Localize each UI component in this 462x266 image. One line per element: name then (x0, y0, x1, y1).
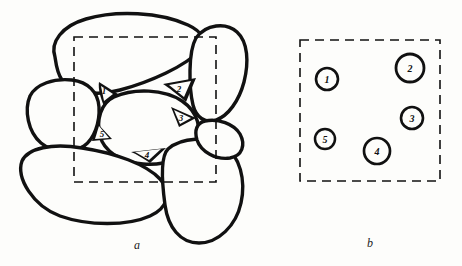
pore-label-5: 5 (100, 129, 105, 139)
pore-label-1: 1 (102, 86, 107, 96)
pore-circle-label-5: 5 (323, 134, 328, 145)
panel-b: 1 2 3 4 5 b (250, 0, 462, 266)
panel-a-caption: a (122, 238, 152, 253)
panel-b-svg: 1 2 3 4 5 (250, 0, 462, 266)
pore-label-3: 3 (178, 113, 184, 123)
pore-circle-label-2: 2 (407, 63, 413, 74)
panel-a-svg: 1 2 3 4 5 (0, 0, 250, 266)
grain-left-middle (27, 80, 99, 151)
grain-top-right (190, 26, 247, 121)
panel-a: 1 2 3 4 5 a (0, 0, 250, 266)
pore-label-4: 4 (144, 150, 150, 160)
pore-circle-label-1: 1 (325, 74, 330, 85)
grain-outlines (21, 13, 247, 243)
pore-label-2: 2 (176, 84, 182, 94)
pore-circle-label-4: 4 (374, 146, 380, 157)
figure-container: 1 2 3 4 5 a 1 2 3 4 5 (0, 0, 462, 266)
panel-b-caption: b (355, 236, 385, 251)
pore-circle-label-3: 3 (409, 113, 415, 124)
pore-circles: 1 2 3 4 5 (315, 54, 424, 164)
